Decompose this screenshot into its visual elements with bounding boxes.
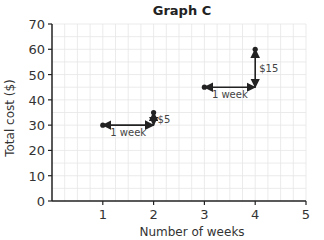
annotation-label: 1 week <box>110 127 146 138</box>
y-tick-label: 20 <box>28 143 45 158</box>
x-tick-label: 5 <box>302 207 310 222</box>
x-tick-label: 4 <box>251 207 259 222</box>
annotation-label: 1 week <box>212 89 248 100</box>
y-axis-label: Total cost ($) <box>3 79 17 158</box>
y-tick-label: 60 <box>28 42 45 57</box>
y-tick-label: 40 <box>28 93 45 108</box>
chart: 010203040506070 12345 1 week$51 week$15 … <box>0 0 324 240</box>
x-axis-label: Number of weeks <box>139 225 244 239</box>
y-tick-label: 50 <box>28 68 45 83</box>
y-tick-label: 70 <box>28 17 45 32</box>
y-tick-labels: 010203040506070 <box>28 17 45 209</box>
chart-title: Graph C <box>153 3 211 18</box>
y-tick-label: 0 <box>37 194 45 209</box>
annotation-label: $5 <box>158 114 171 125</box>
y-tick-label: 30 <box>28 118 45 133</box>
grid <box>52 24 306 201</box>
annotation-label: $15 <box>259 63 278 74</box>
data-point <box>202 85 207 90</box>
data-point <box>253 47 258 52</box>
axes <box>48 24 306 205</box>
y-tick-label: 10 <box>28 169 45 184</box>
x-tick-label: 3 <box>200 207 208 222</box>
data-point <box>100 123 105 128</box>
x-tick-label: 2 <box>149 207 157 222</box>
data-point <box>151 110 156 115</box>
x-tick-labels: 12345 <box>99 207 310 222</box>
x-tick-label: 1 <box>99 207 107 222</box>
